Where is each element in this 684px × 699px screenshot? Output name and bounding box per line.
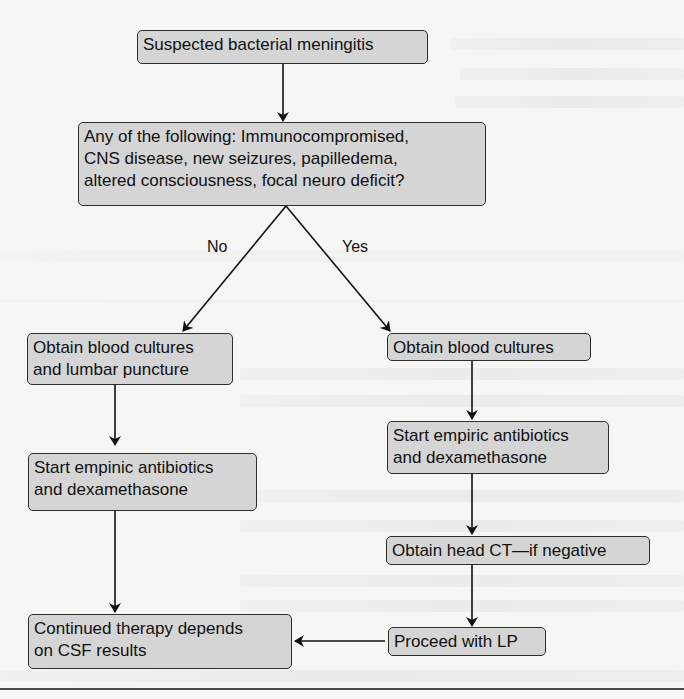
show-through-text: [460, 68, 684, 80]
node-text: Start empiric antibiotics: [393, 425, 603, 447]
node-text: Proceed with LP: [394, 631, 540, 653]
node-risk-factor-question: Any of the following: Immunocompromised,…: [78, 122, 486, 206]
node-text: Obtain head CT—if negative: [392, 540, 644, 562]
node-continued-therapy: Continued therapy depends on CSF results: [28, 614, 292, 669]
node-yes-start-antibiotics: Start empiric antibiotics and dexamethas…: [387, 421, 609, 474]
node-suspected-meningitis: Suspected bacterial meningitis: [137, 30, 428, 64]
show-through-text: [240, 395, 684, 407]
node-yes-blood-cultures: Obtain blood cultures: [387, 333, 591, 361]
node-yes-head-ct: Obtain head CT—if negative: [386, 536, 650, 565]
show-through-text: [240, 490, 684, 502]
node-yes-proceed-lp: Proceed with LP: [388, 627, 546, 656]
node-text: CNS disease, new seizures, papilledema,: [84, 148, 480, 170]
show-through-text: [240, 600, 684, 612]
edge-label-no: No: [207, 238, 227, 256]
show-through-text: [240, 520, 684, 532]
edge-label-yes: Yes: [342, 238, 368, 256]
node-text: and dexamethasone: [393, 447, 603, 469]
node-text: and dexamethasone: [34, 479, 251, 501]
show-through-text: [0, 300, 684, 302]
node-text: Continued therapy depends: [34, 618, 286, 640]
node-text: altered consciousness, focal neuro defic…: [84, 170, 480, 192]
node-no-blood-cultures-lp: Obtain blood cultures and lumbar punctur…: [27, 333, 233, 385]
node-no-start-antibiotics: Start empinic antibiotics and dexamethas…: [28, 453, 257, 511]
arrow-question-to-yes: [286, 206, 390, 331]
node-text: on CSF results: [34, 640, 286, 662]
node-text: Obtain blood cultures: [393, 337, 585, 359]
arrow-question-to-no: [183, 206, 286, 331]
show-through-text: [450, 38, 684, 50]
show-through-text: [240, 575, 684, 587]
node-text: Any of the following: Immunocompromised,: [84, 126, 480, 148]
node-text: Obtain blood cultures: [33, 337, 227, 359]
show-through-text: [240, 368, 684, 380]
show-through-text: [0, 670, 684, 682]
page-divider: [0, 688, 684, 690]
node-text: Start empinic antibiotics: [34, 457, 251, 479]
node-text: Suspected bacterial meningitis: [143, 34, 422, 56]
show-through-text: [455, 96, 684, 108]
node-text: and lumbar puncture: [33, 359, 227, 381]
